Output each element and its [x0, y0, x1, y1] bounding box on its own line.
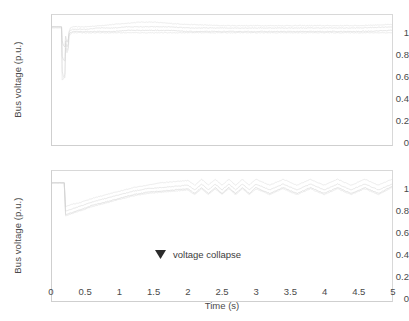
top-plot-axes	[51, 14, 393, 146]
trace-bus-1	[52, 22, 392, 78]
x-axis-label: Time (s)	[51, 300, 393, 311]
x-axis-tick-5: 5	[378, 287, 408, 297]
bottom-plot-y-axis-label: Bus voltage (p.u.)	[12, 188, 23, 284]
trace-bus-3	[52, 27, 392, 47]
bottom-plot-traces	[52, 171, 392, 301]
voltage-collapse-label: voltage collapse	[173, 250, 241, 260]
x-axis-tick-2.5: 2.5	[207, 287, 237, 297]
trace-bus-2	[52, 183, 392, 211]
x-axis-tick-1: 1	[104, 287, 134, 297]
x-axis-tick-4: 4	[310, 287, 340, 297]
trace-bus-3	[52, 183, 392, 215]
bus-voltage-figure: Bus voltage (p.u.) 1 0.8 0.6 0.4 0.2 0 B…	[0, 0, 409, 321]
top-plot-panel: Bus voltage (p.u.) 1 0.8 0.6 0.4 0.2 0	[0, 0, 409, 160]
x-axis-tick-3: 3	[241, 287, 271, 297]
down-arrowhead-icon	[155, 250, 166, 259]
voltage-collapse-annotation: voltage collapse	[155, 250, 241, 260]
trace-bus-4	[52, 28, 392, 80]
x-axis-tick-0.5: 0.5	[70, 287, 100, 297]
x-axis-tick-3.5: 3.5	[275, 287, 305, 297]
bottom-plot-axes	[51, 170, 393, 302]
x-axis-tick-2: 2	[173, 287, 203, 297]
top-plot-traces	[52, 15, 392, 145]
x-axis-tick-4.5: 4.5	[344, 287, 374, 297]
x-axis-tick-1.5: 1.5	[139, 287, 169, 297]
bottom-plot-panel: Bus voltage (p.u.) 1 0.8 0.6 0.4 0.2 0	[0, 160, 409, 321]
x-axis-tick-0: 0	[36, 287, 66, 297]
top-plot-y-axis-label: Bus voltage (p.u.)	[12, 32, 23, 128]
